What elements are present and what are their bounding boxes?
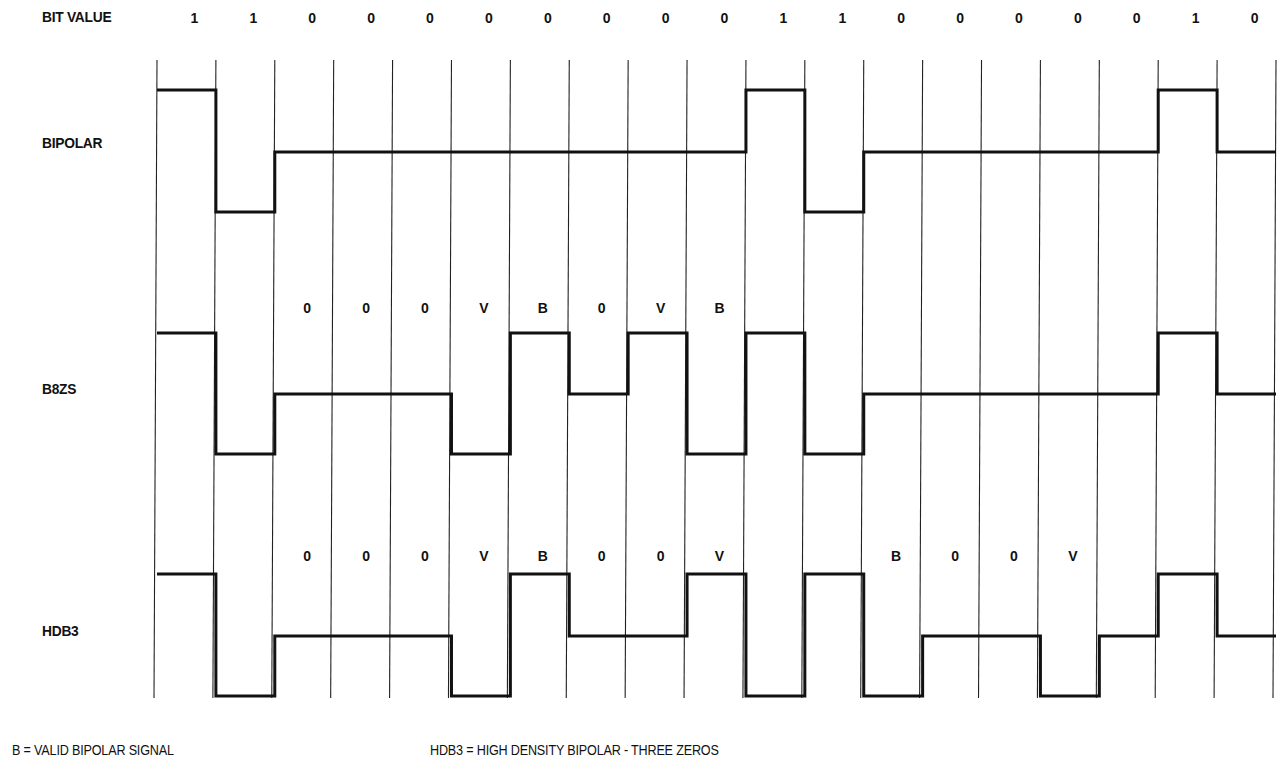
bit-boundary-gridline xyxy=(448,60,451,698)
bit-boundary-gridline xyxy=(390,60,393,698)
bit-boundary-gridline xyxy=(1096,60,1099,698)
bit-boundary-gridline xyxy=(920,60,923,698)
code-annotation: V xyxy=(1063,548,1083,564)
code-annotation: 0 xyxy=(297,300,317,316)
bit-value: 0 xyxy=(950,10,970,26)
waveform-bipolar xyxy=(157,90,1276,212)
bit-value: 0 xyxy=(479,10,499,26)
bit-value: 0 xyxy=(538,10,558,26)
code-annotation: V xyxy=(651,300,671,316)
bit-value: 0 xyxy=(361,10,381,26)
bit-value: 0 xyxy=(597,10,617,26)
code-annotation: B xyxy=(710,300,730,316)
code-annotation: B xyxy=(533,300,553,316)
code-annotation: 0 xyxy=(297,548,317,564)
line-code-diagram xyxy=(0,0,1282,760)
bit-value: 0 xyxy=(1127,10,1147,26)
legend-hdb3: HDB3 = HIGH DENSITY BIPOLAR - THREE ZERO… xyxy=(430,742,719,758)
legend-valid-bipolar: B = VALID BIPOLAR SIGNAL xyxy=(12,742,174,758)
bit-boundary-gridline xyxy=(1037,60,1040,698)
bit-value: 1 xyxy=(243,10,263,26)
bit-value: 0 xyxy=(1245,10,1265,26)
bit-value: 0 xyxy=(302,10,322,26)
bit-value: 0 xyxy=(656,10,676,26)
waveform-hdb3 xyxy=(157,574,1276,696)
bit-value: 0 xyxy=(715,10,735,26)
bit-value: 1 xyxy=(773,10,793,26)
code-annotation: 0 xyxy=(356,300,376,316)
code-annotation: 0 xyxy=(356,548,376,564)
bit-boundary-gridline xyxy=(1273,60,1276,698)
bit-value: 1 xyxy=(832,10,852,26)
code-annotation: 0 xyxy=(945,548,965,564)
waveform-b8zs xyxy=(157,333,1276,454)
bit-value: 0 xyxy=(1068,10,1088,26)
bit-value: 1 xyxy=(184,10,204,26)
code-annotation: 0 xyxy=(1004,548,1024,564)
code-annotation: 0 xyxy=(592,548,612,564)
bit-value: 0 xyxy=(420,10,440,26)
code-annotation: 0 xyxy=(415,548,435,564)
code-annotation: B xyxy=(533,548,553,564)
code-annotation: 0 xyxy=(651,548,671,564)
code-annotation: 0 xyxy=(592,300,612,316)
bit-value: 0 xyxy=(891,10,911,26)
code-annotation: 0 xyxy=(415,300,435,316)
bit-boundary-gridline xyxy=(979,60,982,698)
code-annotation: B xyxy=(886,548,906,564)
code-annotation: V xyxy=(474,548,494,564)
bit-boundary-gridline xyxy=(154,60,157,698)
code-annotation: V xyxy=(474,300,494,316)
bit-boundary-gridline xyxy=(331,60,334,698)
code-annotation: V xyxy=(710,548,730,564)
bit-value: 1 xyxy=(1186,10,1206,26)
bit-value: 0 xyxy=(1009,10,1029,26)
